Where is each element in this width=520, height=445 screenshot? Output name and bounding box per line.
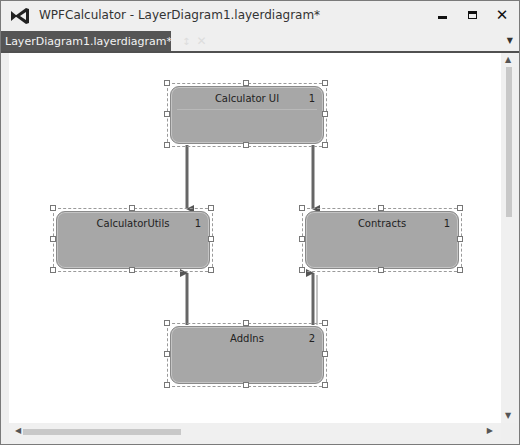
horizontal-scrollbar[interactable]: ◀ ▶ (9, 423, 501, 440)
resize-handle[interactable] (299, 267, 305, 273)
layer-artifact-count: 1 (444, 218, 450, 229)
layer-artifact-count: 1 (309, 93, 315, 104)
layer-contracts[interactable]: Contracts 1 (305, 211, 459, 269)
close-button[interactable]: ✕ (489, 5, 515, 25)
resize-handle[interactable] (299, 205, 305, 211)
resize-handle[interactable] (322, 320, 328, 326)
visual-studio-icon (9, 7, 31, 25)
tab-label: LayerDiagram1.layerdiagram* (5, 35, 172, 48)
vertical-scrollbar[interactable]: ▲ ▼ (501, 53, 518, 423)
resize-handle[interactable] (50, 267, 56, 273)
layer-artifact-count: 1 (195, 218, 201, 229)
resize-handle[interactable] (243, 382, 249, 388)
resize-handle[interactable] (243, 142, 249, 148)
resize-handle[interactable] (322, 111, 328, 117)
maximize-icon (468, 11, 477, 19)
resize-handle[interactable] (378, 205, 384, 211)
layer-addins[interactable]: AddIns 2 (170, 326, 324, 384)
scroll-down-icon[interactable]: ▼ (505, 411, 511, 420)
resize-handle[interactable] (243, 320, 249, 326)
resize-handle[interactable] (378, 267, 384, 273)
layer-diagram-canvas[interactable]: Calculator UI 1 CalculatorUtils 1 Contra… (9, 53, 501, 423)
resize-handle[interactable] (457, 236, 463, 242)
title-bar: WPFCalculator - LayerDiagram1.layerdiagr… (1, 1, 519, 31)
resize-handle[interactable] (164, 80, 170, 86)
layer-name: Calculator UI (171, 93, 323, 104)
layer-calculator-ui[interactable]: Calculator UI 1 (170, 86, 324, 144)
resize-handle[interactable] (164, 320, 170, 326)
resize-handle[interactable] (50, 236, 56, 242)
scroll-left-icon[interactable]: ◀ (15, 426, 21, 435)
resize-handle[interactable] (50, 205, 56, 211)
layer-name: AddIns (171, 333, 323, 344)
resize-handle[interactable] (322, 382, 328, 388)
close-icon: ✕ (496, 8, 509, 23)
pin-icon[interactable]: ↕ (182, 36, 190, 47)
tab-layerdiagram1[interactable]: LayerDiagram1.layerdiagram* ↕ ✕ (1, 31, 171, 51)
minimize-icon (438, 16, 447, 19)
resize-handle[interactable] (457, 205, 463, 211)
resize-handle[interactable] (322, 351, 328, 357)
document-tab-strip: LayerDiagram1.layerdiagram* ↕ ✕ ▼ (1, 31, 519, 53)
minimize-button[interactable] (429, 5, 455, 25)
divider (177, 109, 317, 110)
resize-handle[interactable] (164, 111, 170, 117)
layer-name: Contracts (306, 218, 458, 229)
resize-handle[interactable] (208, 205, 214, 211)
scroll-up-icon[interactable]: ▲ (505, 55, 511, 64)
resize-handle[interactable] (164, 382, 170, 388)
maximize-button[interactable] (459, 5, 485, 25)
app-window: WPFCalculator - LayerDiagram1.layerdiagr… (0, 0, 520, 445)
window-title: WPFCalculator - LayerDiagram1.layerdiagr… (39, 8, 320, 22)
layer-artifact-count: 2 (309, 333, 315, 344)
layer-calculator-utils[interactable]: CalculatorUtils 1 (56, 211, 210, 269)
layer-name: CalculatorUtils (57, 218, 209, 229)
resize-handle[interactable] (322, 80, 328, 86)
horizontal-scroll-thumb[interactable] (23, 429, 181, 435)
resize-handle[interactable] (164, 142, 170, 148)
vertical-scroll-thumb[interactable] (506, 67, 512, 217)
tab-close-icon[interactable]: ✕ (196, 34, 206, 48)
resize-handle[interactable] (299, 236, 305, 242)
resize-handle[interactable] (243, 80, 249, 86)
resize-handle[interactable] (129, 205, 135, 211)
resize-handle[interactable] (208, 236, 214, 242)
resize-handle[interactable] (164, 351, 170, 357)
resize-handle[interactable] (322, 142, 328, 148)
tab-overflow-dropdown-icon[interactable]: ▼ (507, 36, 513, 45)
resize-handle[interactable] (457, 267, 463, 273)
scroll-right-icon[interactable]: ▶ (487, 426, 493, 435)
resize-handle[interactable] (129, 267, 135, 273)
resize-handle[interactable] (208, 267, 214, 273)
